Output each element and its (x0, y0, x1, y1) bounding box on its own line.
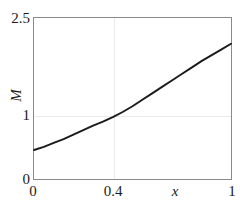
y-tick-label-1: 1 (0, 108, 30, 123)
chart-figure: 2.5 1 0 M 0 0.4 1 x (0, 0, 245, 207)
x-tick-label-1: 1 (221, 184, 243, 199)
series-line-M (34, 44, 231, 150)
x-tick-label-0: 0 (22, 184, 44, 199)
plot-area (33, 17, 232, 180)
x-tick-label-0-4: 0.4 (97, 184, 129, 199)
y-axis-title: M (9, 88, 24, 104)
data-curve-svg (34, 18, 231, 179)
x-axis-title: x (166, 184, 184, 199)
y-tick-label-2-5: 2.5 (0, 11, 30, 26)
